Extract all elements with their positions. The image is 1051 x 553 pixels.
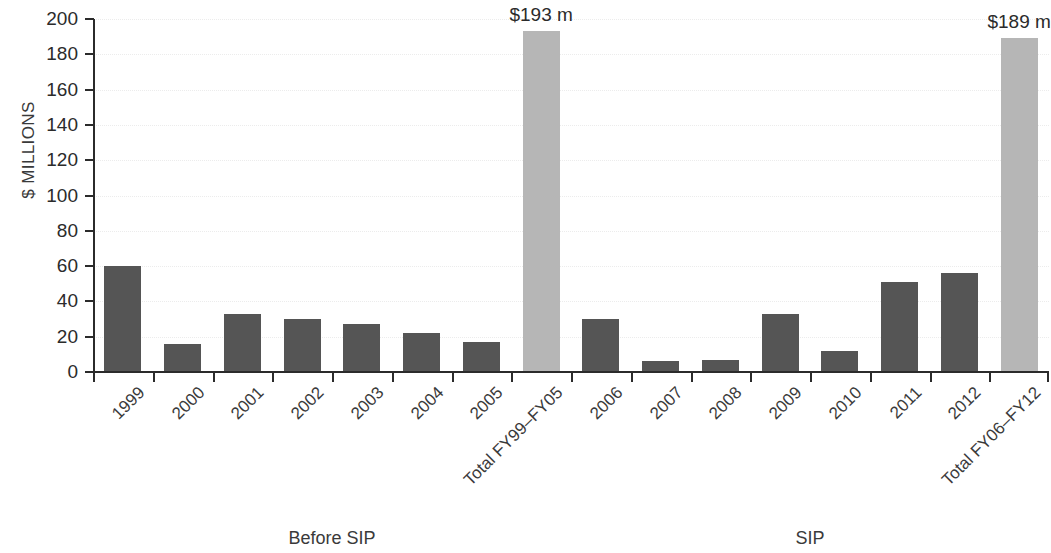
x-axis-tick [452, 373, 454, 382]
y-axis-tick-label: 100 [0, 185, 78, 207]
bar-2011 [881, 282, 918, 372]
y-axis-tick-label: 200 [0, 8, 78, 30]
bar-2004 [403, 333, 440, 372]
x-axis-tick [691, 373, 693, 382]
bar-2003 [343, 324, 380, 372]
x-axis-tick-label: 2003 [347, 383, 388, 424]
x-axis-tick-label: 2009 [765, 383, 806, 424]
group-caption: SIP [795, 528, 824, 549]
gridline [93, 196, 1049, 197]
x-axis-tick [392, 373, 394, 382]
x-axis-tick [1047, 373, 1049, 382]
bar-1999 [104, 266, 141, 372]
x-axis-tick-label: 2012 [945, 383, 986, 424]
bar-2006 [582, 319, 619, 372]
x-axis-tick [571, 373, 573, 382]
bar-2005 [463, 342, 500, 372]
bar-2001 [224, 314, 261, 372]
y-axis-tick-label: 140 [0, 114, 78, 136]
y-axis-tick-label: 180 [0, 43, 78, 65]
x-axis-tick [930, 373, 932, 382]
y-axis-tick-label: 0 [0, 361, 78, 383]
y-axis-tick-label: 80 [0, 220, 78, 242]
bar-2000 [164, 344, 201, 372]
bar-total-fy06-fy12 [1001, 38, 1038, 372]
gridline [93, 266, 1049, 267]
x-axis-tick [511, 373, 513, 382]
x-axis-tick-label: 2004 [407, 383, 448, 424]
gridline [93, 125, 1049, 126]
x-axis-tick-label: 2000 [168, 383, 209, 424]
x-axis-tick-label: 1999 [108, 383, 149, 424]
bar-value-label: $189 m [987, 11, 1050, 33]
x-axis-tick-label: 2008 [706, 383, 747, 424]
x-axis-tick [989, 373, 991, 382]
x-axis-tick-label: 2002 [287, 383, 328, 424]
y-axis-line [93, 19, 95, 373]
y-axis-tick-label: 60 [0, 255, 78, 277]
x-axis-tick [153, 373, 155, 382]
x-axis-tick-label: 2001 [228, 383, 269, 424]
y-axis-tick-label: 160 [0, 79, 78, 101]
y-axis-tick-label: 20 [0, 326, 78, 348]
bar-value-label: $193 m [509, 4, 572, 26]
plot-inner [93, 19, 1049, 372]
y-axis-tick-label: 120 [0, 149, 78, 171]
bar-2010 [821, 351, 858, 372]
gridline [93, 54, 1049, 55]
gridline [93, 90, 1049, 91]
group-caption: Before SIP [288, 528, 375, 549]
x-axis-tick-label: 2007 [646, 383, 687, 424]
bar-2009 [762, 314, 799, 372]
x-axis-tick [631, 373, 633, 382]
plot-area [93, 19, 1049, 372]
x-axis-tick [213, 373, 215, 382]
y-axis-tick-label: 40 [0, 290, 78, 312]
x-axis-tick [870, 373, 872, 382]
gridline [93, 160, 1049, 161]
x-axis-tick [332, 373, 334, 382]
gridline [93, 231, 1049, 232]
x-axis-tick [810, 373, 812, 382]
x-axis-tick [93, 373, 95, 382]
x-axis-tick [750, 373, 752, 382]
bar-2012 [941, 273, 978, 372]
bar-total-fy99-fy05 [523, 31, 560, 372]
x-axis-tick [272, 373, 274, 382]
x-axis-tick-label: 2010 [825, 383, 866, 424]
x-axis-tick-label: 2005 [467, 383, 508, 424]
x-axis-tick-label: 2006 [586, 383, 627, 424]
bar-2002 [284, 319, 321, 372]
x-axis-tick-label: 2011 [886, 383, 926, 423]
